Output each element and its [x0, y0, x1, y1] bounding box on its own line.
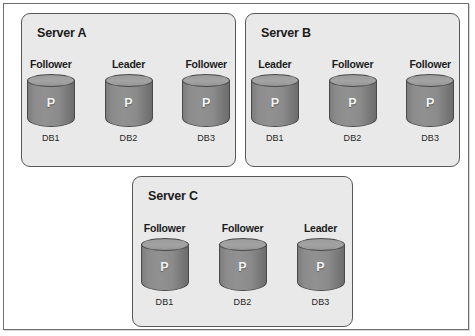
db-label: DB3 [197, 133, 215, 143]
role-label: Follower [332, 58, 374, 70]
db-node-row-b: Leader P DB1 Follower P DB2 Follower [246, 58, 459, 143]
role-label: Follower [185, 58, 227, 70]
role-label: Leader [258, 58, 291, 70]
database-cylinder-icon: P [182, 74, 230, 128]
db-label: DB2 [234, 297, 252, 307]
server-title-a: Server A [37, 26, 86, 40]
db-label: DB2 [344, 133, 362, 143]
cylinder-letter: P [297, 238, 345, 292]
db-node[interactable]: Follower P DB3 [177, 58, 235, 143]
db-node[interactable]: Leader P DB1 [246, 58, 304, 143]
cylinder-letter: P [27, 74, 75, 128]
role-label: Follower [30, 58, 72, 70]
database-cylinder-icon: P [105, 74, 153, 128]
db-label: DB1 [266, 133, 284, 143]
role-label: Leader [304, 222, 337, 234]
database-cylinder-icon: P [329, 74, 377, 128]
role-label: Follower [409, 58, 451, 70]
cylinder-letter: P [251, 74, 299, 128]
server-group-server-b: Server B Leader P DB1 Follower P DB2 [245, 13, 460, 167]
db-node[interactable]: Follower P DB2 [214, 222, 272, 307]
server-title-c: Server C [148, 189, 198, 203]
role-label: Follower [144, 222, 186, 234]
db-label: DB3 [312, 297, 330, 307]
db-label: DB1 [42, 133, 60, 143]
db-node[interactable]: Leader P DB2 [100, 58, 158, 143]
cylinder-letter: P [406, 74, 454, 128]
server-group-server-a: Server A Follower P DB1 Leader P DB2 [21, 13, 236, 167]
db-label: DB2 [120, 133, 138, 143]
db-label: DB3 [421, 133, 439, 143]
server-group-server-c: Server C Follower P DB1 Follower P DB2 [132, 176, 353, 327]
db-node[interactable]: Follower P DB2 [324, 58, 382, 143]
database-cylinder-icon: P [27, 74, 75, 128]
role-label: Leader [112, 58, 145, 70]
db-node[interactable]: Follower P DB3 [401, 58, 459, 143]
cylinder-letter: P [219, 238, 267, 292]
database-cylinder-icon: P [219, 238, 267, 292]
database-cylinder-icon: P [141, 238, 189, 292]
db-node[interactable]: Leader P DB3 [292, 222, 350, 307]
cylinder-letter: P [141, 238, 189, 292]
database-cylinder-icon: P [406, 74, 454, 128]
server-title-b: Server B [261, 26, 311, 40]
db-label: DB1 [156, 297, 174, 307]
db-node[interactable]: Follower P DB1 [136, 222, 194, 307]
db-node-row-c: Follower P DB1 Follower P DB2 Leader [133, 222, 352, 307]
diagram-frame: Server A Follower P DB1 Leader P DB2 [3, 3, 469, 330]
cylinder-letter: P [329, 74, 377, 128]
db-node-row-a: Follower P DB1 Leader P DB2 Follower [22, 58, 235, 143]
role-label: Follower [222, 222, 264, 234]
cylinder-letter: P [182, 74, 230, 128]
db-node[interactable]: Follower P DB1 [22, 58, 80, 143]
cylinder-letter: P [105, 74, 153, 128]
database-cylinder-icon: P [251, 74, 299, 128]
database-cylinder-icon: P [297, 238, 345, 292]
